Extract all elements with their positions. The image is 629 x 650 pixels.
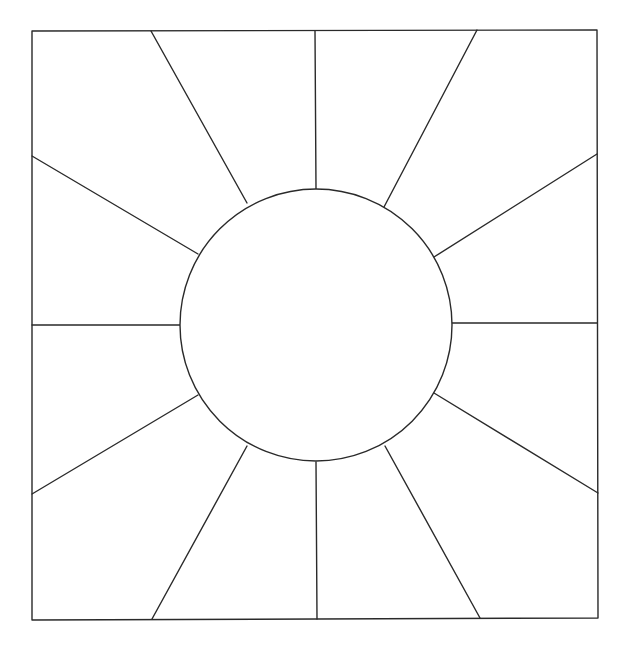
center-circle: [180, 189, 452, 461]
sun-diagram: [0, 0, 629, 650]
spoke-6-oclock: [316, 462, 317, 619]
spoke-12-oclock: [315, 31, 316, 189]
